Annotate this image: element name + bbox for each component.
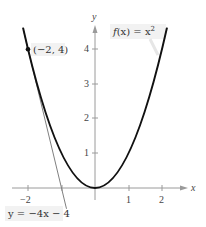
y-tick-label: 1: [84, 147, 89, 158]
function-label: f(x) = x2: [112, 25, 155, 37]
y-tick-label: 4: [84, 43, 89, 54]
function-label-leader: [150, 39, 158, 55]
x-tick-label: 1: [126, 194, 131, 205]
chart-canvas: −2 1 2 4 3 2 1 x y (−2, 4) f(x) = x2 y =…: [0, 0, 206, 227]
x-tick-label: −2: [20, 194, 31, 205]
point-label: (−2, 4): [33, 44, 68, 55]
y-tick-label: 3: [84, 78, 89, 89]
function-label-exponent: 2: [151, 25, 155, 33]
x-axis-label: x: [190, 182, 196, 193]
x-axis-arrow-icon: [180, 186, 188, 191]
x-tick-label: 2: [159, 194, 164, 205]
y-axis-label: y: [91, 11, 97, 22]
y-tick-label: 2: [84, 112, 89, 123]
tangent-point-marker: [26, 47, 31, 52]
y-axis-arrow-icon: [93, 25, 98, 33]
function-label-body: (x) = x: [117, 26, 151, 37]
y-axis: [92, 25, 98, 200]
tangent-label: y = −4x − 4: [7, 208, 70, 219]
